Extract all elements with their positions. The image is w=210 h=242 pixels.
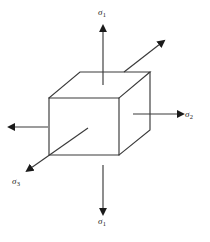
sigma3-lower-left-label: σ3 (12, 177, 20, 186)
cube-top-face-edges (49, 72, 150, 98)
sigma1-top-label: σ1 (98, 8, 106, 17)
cube-front-face-edges (49, 98, 119, 155)
sigma1-top-symbol: σ (98, 7, 102, 17)
sigma1-top-subscript: 1 (103, 11, 106, 18)
sigma3-symbol: σ (12, 176, 16, 186)
sigma3-in-arrow (124, 44, 160, 72)
stress-arrows (14, 31, 178, 209)
sigma3-subscript: 3 (17, 180, 20, 187)
principal-stress-diagram: σ1 σ1 σ2 σ3 (0, 0, 210, 242)
sigma3-out-arrow (31, 128, 88, 168)
stress-cube-drawing (0, 0, 210, 242)
sigma2-right-subscript: 2 (190, 113, 193, 120)
sigma2-right-label: σ2 (185, 110, 193, 119)
sigma2-right-symbol: σ (185, 109, 189, 119)
sigma1-bottom-subscript: 1 (103, 220, 106, 227)
sigma1-bottom-label: σ1 (98, 217, 106, 226)
sigma1-bottom-symbol: σ (98, 216, 102, 226)
